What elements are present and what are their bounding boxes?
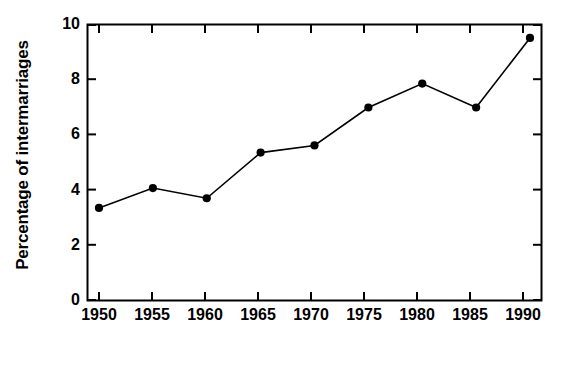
x-tick-label: 1975	[334, 306, 394, 324]
x-tick-label: 1990	[493, 306, 553, 324]
y-axis-ticks-right	[533, 25, 541, 300]
data-point	[364, 103, 372, 111]
x-axis-ticks	[99, 292, 523, 300]
data-point	[95, 204, 103, 212]
y-axis-ticks	[88, 25, 96, 300]
data-point	[418, 79, 426, 87]
x-axis-ticks-top	[99, 25, 523, 33]
y-tick-label: 6	[56, 126, 80, 142]
x-tick-label: 1980	[387, 306, 447, 324]
x-tick-label: 1970	[281, 306, 341, 324]
x-tick-label: 1965	[228, 306, 288, 324]
series-line	[99, 38, 530, 208]
data-point	[310, 141, 318, 149]
y-axis-title: Percentage of intermarriages	[8, 5, 38, 305]
x-tick-label: 1960	[175, 306, 235, 324]
data-point	[526, 34, 534, 42]
x-tick-label: 1950	[69, 306, 129, 324]
x-tick-label: 1955	[122, 306, 182, 324]
series-markers	[95, 34, 534, 212]
y-tick-label: 8	[56, 71, 80, 87]
y-tick-label: 4	[56, 182, 80, 198]
data-point	[257, 149, 265, 157]
data-point	[203, 194, 211, 202]
chart-figure: Percentage of intermarriages 10 8 6 4 2 …	[0, 0, 561, 365]
data-point	[149, 184, 157, 192]
axis-frame	[88, 25, 542, 301]
y-tick-label: 2	[56, 237, 80, 253]
data-point	[472, 103, 480, 111]
y-tick-label: 10	[56, 16, 80, 32]
x-tick-label: 1985	[440, 306, 500, 324]
